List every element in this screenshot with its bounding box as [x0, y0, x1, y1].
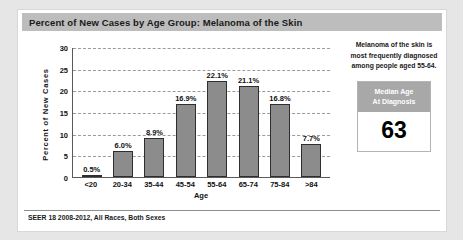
y-axis-tick: 5: [64, 152, 68, 161]
bar-slot: 16.8%: [270, 48, 290, 177]
bar-chart: Percent of New Cases 051015202530 0.5%6.…: [38, 37, 334, 207]
bar: [82, 175, 102, 178]
bar-slot: 21.1%: [239, 48, 259, 177]
bar-value-label: 7.7%: [303, 134, 320, 143]
y-axis-label-text: Percent of New Cases: [41, 68, 50, 160]
plot-area: 0.5%6.0%8.9%16.9%22.1%21.1%16.8%7.7%: [72, 48, 330, 178]
x-axis-label: Age: [72, 191, 330, 200]
x-axis-tick: <20: [76, 180, 106, 189]
y-axis-tick: 15: [60, 109, 68, 118]
chart-card: Percent of New Cases by Age Group: Melan…: [18, 10, 446, 231]
x-axis-tick: 75-84: [265, 180, 295, 189]
x-axis-tick: 20-34: [107, 180, 137, 189]
y-axis-tick: 0: [64, 174, 68, 183]
bar-slot: 22.1%: [207, 48, 227, 177]
side-panel: Melanoma of the skin is most frequently …: [348, 40, 440, 152]
bar-value-label: 16.8%: [269, 94, 290, 103]
bar-slot: 7.7%: [301, 48, 321, 177]
x-axis-tick: 55-64: [202, 180, 232, 189]
chart-title-bar: Percent of New Cases by Age Group: Melan…: [22, 13, 442, 31]
median-age-header-line2: At Diagnosis: [360, 97, 428, 107]
x-axis-tick: 35-44: [139, 180, 169, 189]
bar-slot: 8.9%: [144, 48, 164, 177]
bar-value-label: 8.9%: [146, 128, 163, 137]
y-axis-label: Percent of New Cases: [38, 55, 52, 173]
bar-value-label: 0.5%: [83, 165, 100, 174]
page-title: Percent of New Cases by Age Group: Melan…: [22, 17, 302, 28]
bar-slot: 16.9%: [176, 48, 196, 177]
x-axis-ticks: <2020-3435-4445-5455-6465-7475-84>84: [72, 180, 330, 189]
bar-value-label: 21.1%: [238, 76, 259, 85]
bar-series: 0.5%6.0%8.9%16.9%22.1%21.1%16.8%7.7%: [73, 48, 330, 177]
bar: [144, 138, 164, 177]
footer-divider: [24, 210, 440, 211]
bar-value-label: 6.0%: [115, 141, 132, 150]
x-axis-tick: 45-54: [170, 180, 200, 189]
y-axis-tick: 25: [60, 65, 68, 74]
y-axis-tick: 30: [60, 44, 68, 53]
bar: [239, 86, 259, 177]
bar-value-label: 16.9%: [175, 94, 196, 103]
x-axis-tick: 65-74: [233, 180, 263, 189]
bar: [270, 104, 290, 177]
median-age-box: Median Age At Diagnosis 63: [357, 81, 431, 152]
source-note: SEER 18 2008-2012, All Races, Both Sexes: [28, 214, 165, 221]
bar-value-label: 22.1%: [207, 71, 228, 80]
bar: [207, 81, 227, 177]
y-axis-tick: 10: [60, 130, 68, 139]
bar: [113, 151, 133, 177]
bar: [301, 144, 321, 177]
bar: [176, 104, 196, 177]
y-axis-ticks: 051015202530: [52, 48, 70, 178]
bar-slot: 0.5%: [82, 48, 102, 177]
median-age-value: 63: [358, 112, 430, 151]
bar-slot: 6.0%: [113, 48, 133, 177]
y-axis-tick: 20: [60, 87, 68, 96]
median-age-box-header: Median Age At Diagnosis: [358, 82, 430, 112]
side-panel-description: Melanoma of the skin is most frequently …: [348, 40, 440, 72]
screenshot-page: Percent of New Cases by Age Group: Melan…: [0, 0, 463, 240]
x-axis-tick: >84: [296, 180, 326, 189]
median-age-header-line1: Median Age: [360, 87, 428, 97]
